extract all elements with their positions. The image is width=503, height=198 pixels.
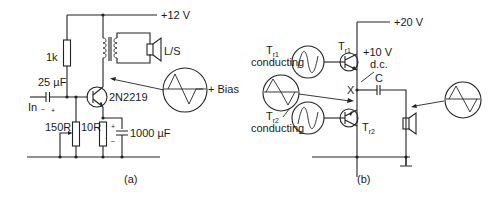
loudspeaker-label: L/S bbox=[164, 45, 181, 57]
bias-waveform-icon bbox=[163, 68, 207, 112]
amplifier-circuit-figure: +12 V 1k L/S 25 µF In – + bbox=[0, 0, 503, 198]
input-minus: – bbox=[41, 105, 45, 112]
loudspeaker-b-icon bbox=[403, 113, 416, 134]
input-plus: + bbox=[51, 107, 55, 114]
transformer-primary-icon bbox=[103, 38, 106, 58]
resistor-10r-label: 10R bbox=[81, 121, 101, 133]
node-x-label: X bbox=[347, 84, 355, 96]
resistor-1k-label: 1k bbox=[46, 51, 58, 63]
cap-plus: + bbox=[111, 123, 115, 130]
transformer-core-icon bbox=[109, 37, 111, 61]
transistor-2n2219-icon bbox=[87, 82, 107, 118]
cap-minus: – bbox=[111, 137, 115, 144]
capacitor-1000uf-icon bbox=[116, 131, 128, 135]
tr2-conducting-label: conducting bbox=[251, 122, 304, 134]
output-waveform-icon bbox=[445, 82, 481, 118]
diagram-b-push-pull-amplifier: +20 V Tr1 +10 V d.c. X C Tr bbox=[251, 16, 481, 185]
tr1-label: Tr1 bbox=[338, 40, 351, 54]
loudspeaker-icon bbox=[147, 38, 161, 61]
potentiometer-150r bbox=[73, 122, 80, 146]
potentiometer-label: 150R bbox=[45, 121, 71, 133]
transformer-secondary-icon bbox=[114, 38, 117, 58]
capacitor-1000uf-label: 1000 µF bbox=[130, 127, 171, 139]
supply-label-20v: +20 V bbox=[394, 16, 424, 28]
midpoint-voltage-label: +10 V bbox=[363, 46, 393, 58]
ground-symbol-icon bbox=[400, 157, 412, 166]
supply-label-12v: +12 V bbox=[161, 9, 191, 21]
caption-b: (b) bbox=[357, 173, 370, 185]
transistor-tr1-icon bbox=[324, 53, 358, 71]
capacitor-25uf-label: 25 µF bbox=[38, 76, 67, 88]
input-label: In bbox=[28, 101, 37, 113]
resistor-1k bbox=[64, 40, 71, 66]
transistor-tr2-icon bbox=[324, 109, 358, 127]
caption-a: (a) bbox=[124, 173, 137, 185]
capacitor-25uf-icon bbox=[46, 92, 50, 102]
tr1-conducting-label: conducting bbox=[251, 56, 304, 68]
combined-waveform-icon bbox=[263, 75, 299, 111]
transistor-label: 2N2219 bbox=[109, 91, 148, 103]
diagram-a-single-ended-amplifier: +12 V 1k L/S 25 µF In – + bbox=[27, 9, 239, 185]
capacitor-c-label: C bbox=[375, 72, 383, 84]
tr2-label: Tr2 bbox=[362, 121, 375, 135]
bias-label: + Bias bbox=[208, 83, 239, 95]
capacitor-c-icon bbox=[377, 85, 380, 95]
midpoint-dc-label: d.c. bbox=[370, 58, 388, 70]
